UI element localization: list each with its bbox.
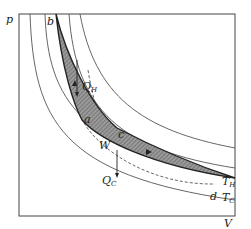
carnot-diagram: p V b c a d W QH QC TH TC <box>0 0 251 229</box>
work-area <box>56 14 235 178</box>
axis-label-p: p <box>6 13 13 26</box>
work-label: W <box>99 139 112 152</box>
q-hot-label: QH <box>82 80 98 94</box>
point-c: c <box>118 128 124 141</box>
point-d: d <box>210 190 217 203</box>
q-cold-label: QC <box>102 174 117 188</box>
t-cold-label: TC <box>222 191 235 205</box>
axis-label-v: V <box>224 217 233 229</box>
point-a: a <box>84 113 91 126</box>
point-b: b <box>47 15 54 28</box>
arrow-down-icon <box>115 173 119 178</box>
